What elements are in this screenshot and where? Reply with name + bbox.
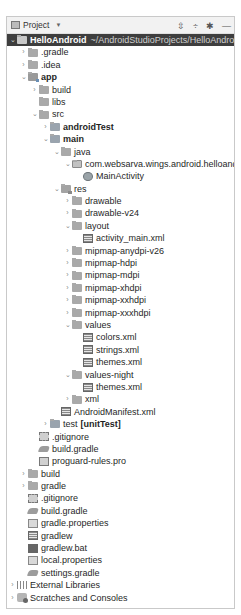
chevron-down-icon[interactable]: ⌄ — [63, 319, 72, 331]
tree-item[interactable]: ›mipmap-mdpi — [7, 269, 234, 281]
chevron-right-icon[interactable]: › — [8, 579, 17, 591]
tree-item[interactable]: proguard-rules.pro — [7, 455, 234, 467]
collapse-all-button[interactable]: ÷ — [193, 21, 198, 31]
chevron-right-icon[interactable]: › — [63, 207, 72, 219]
tree-item[interactable]: build.gradle — [7, 505, 234, 517]
gradle-file-icon — [27, 570, 39, 576]
chevron-right-icon[interactable]: › — [63, 282, 72, 294]
tree-item[interactable]: ›.idea — [7, 59, 234, 71]
tree-item[interactable]: ›build — [7, 84, 234, 96]
tree-item-label: gradle — [41, 480, 66, 492]
chevron-right-icon[interactable]: › — [19, 59, 28, 71]
chevron-down-icon[interactable]: ⌄ — [19, 71, 28, 83]
tree-item[interactable]: ›mipmap-xxxhdpi — [7, 307, 234, 319]
tree-item[interactable]: settings.gradle — [7, 567, 234, 579]
tree-item[interactable]: AndroidManifest.xml — [7, 406, 234, 418]
tree-item[interactable]: ⌄values — [7, 319, 234, 331]
chevron-down-icon[interactable]: ⌄ — [63, 369, 72, 381]
tree-item[interactable]: ›build — [7, 468, 234, 480]
chevron-right-icon[interactable]: › — [63, 393, 72, 405]
tree-item-label: .gitignore — [41, 492, 78, 504]
tree-item-label: values-night — [85, 369, 134, 381]
tree-item[interactable]: ›drawable — [7, 195, 234, 207]
tree-item[interactable]: ›gradle — [7, 480, 234, 492]
chevron-down-icon[interactable]: ⌄ — [30, 108, 39, 120]
tree-item[interactable]: .gitignore — [7, 431, 234, 443]
folder-icon — [72, 371, 82, 379]
chevron-right-icon[interactable]: › — [8, 592, 17, 604]
tree-item[interactable]: build.gradle — [7, 443, 234, 455]
tree-item[interactable]: ›mipmap-xhdpi — [7, 282, 234, 294]
chevron-right-icon[interactable]: › — [30, 84, 39, 96]
tree-item[interactable]: activity_main.xml — [7, 232, 234, 244]
tree-item[interactable]: ›androidTest — [7, 121, 234, 133]
expand-all-button[interactable]: ⇳ — [177, 21, 185, 31]
tree-item[interactable]: MainActivity — [7, 170, 234, 182]
tree-item-label: strings.xml — [96, 344, 139, 356]
chevron-right-icon[interactable]: › — [19, 46, 28, 58]
chevron-right-icon[interactable]: › — [63, 294, 72, 306]
tree-item-label: androidTest — [63, 121, 114, 133]
project-view-selector[interactable]: Project ▼ — [11, 20, 61, 30]
tree-item-label: test — [63, 418, 78, 430]
chevron-right-icon[interactable]: › — [63, 307, 72, 319]
tree-item[interactable]: ›test[unitTest] — [7, 418, 234, 430]
module-folder-icon — [28, 73, 38, 81]
tree-item[interactable]: themes.xml — [7, 356, 234, 368]
tree-item-label: activity_main.xml — [96, 232, 165, 244]
tree-item[interactable]: ›Scratches and Consoles — [7, 592, 234, 604]
properties-file-icon — [28, 519, 38, 528]
tree-item[interactable]: ›.gradle — [7, 46, 234, 58]
tree-item[interactable]: ⌄HelloAndroid ~/AndroidStudioProjects/He… — [7, 34, 234, 46]
chevron-down-icon[interactable]: ⌄ — [63, 220, 72, 232]
folder-icon — [72, 321, 82, 329]
tree-item[interactable]: ›mipmap-anydpi-v26 — [7, 245, 234, 257]
tree-item[interactable]: ›xml — [7, 393, 234, 405]
tree-item[interactable]: ⌄layout — [7, 220, 234, 232]
tree-item-label: drawable-v24 — [85, 207, 139, 219]
tree-item[interactable]: ⌄java — [7, 146, 234, 158]
chevron-right-icon[interactable]: › — [63, 245, 72, 257]
tree-item[interactable]: gradle.properties — [7, 517, 234, 529]
tree-item-label: build — [52, 84, 71, 96]
chevron-right-icon[interactable]: › — [41, 418, 50, 430]
chevron-down-icon[interactable]: ⌄ — [8, 34, 17, 46]
tree-item[interactable]: ›mipmap-xxhdpi — [7, 294, 234, 306]
tree-item[interactable]: gradlew.bat — [7, 542, 234, 554]
tree-item[interactable]: ›External Libraries — [7, 579, 234, 591]
tree-item-label: mipmap-xhdpi — [85, 282, 142, 294]
tree-item[interactable]: colors.xml — [7, 331, 234, 343]
hide-button[interactable]: — — [222, 21, 231, 31]
tree-item-label: AndroidManifest.xml — [74, 406, 156, 418]
tree-item[interactable]: local.properties — [7, 554, 234, 566]
chevron-right-icon[interactable]: › — [19, 480, 28, 492]
tree-item[interactable]: gradlew — [7, 530, 234, 542]
chevron-right-icon[interactable]: › — [41, 121, 50, 133]
chevron-down-icon[interactable]: ⌄ — [41, 133, 50, 145]
collapse-all-icon: ÷ — [193, 21, 198, 31]
library-icon — [17, 581, 27, 589]
chevron-down-icon[interactable]: ⌄ — [52, 183, 61, 195]
chevron-right-icon[interactable]: › — [19, 468, 28, 480]
chevron-right-icon[interactable]: › — [63, 195, 72, 207]
tree-item[interactable]: strings.xml — [7, 344, 234, 356]
settings-button[interactable]: ✱ — [206, 21, 214, 31]
tree-item-label: libs — [52, 96, 66, 108]
tree-item[interactable]: libs — [7, 96, 234, 108]
tree-item[interactable]: ⌄main — [7, 133, 234, 145]
tree-item[interactable]: ›mipmap-hdpi — [7, 257, 234, 269]
chevron-right-icon[interactable]: › — [63, 257, 72, 269]
tree-item[interactable]: ⌄res — [7, 183, 234, 195]
chevron-right-icon[interactable]: › — [63, 269, 72, 281]
tree-item[interactable]: .gitignore — [7, 492, 234, 504]
tree-item[interactable]: ⌄src — [7, 108, 234, 120]
chevron-down-icon[interactable]: ⌄ — [52, 146, 61, 158]
tree-item[interactable]: themes.xml — [7, 381, 234, 393]
tree-item-label: mipmap-xxhdpi — [85, 294, 146, 306]
folder-icon — [28, 482, 38, 490]
tree-item[interactable]: ⌄app — [7, 71, 234, 83]
chevron-down-icon[interactable]: ⌄ — [63, 158, 72, 170]
tree-item[interactable]: ›drawable-v24 — [7, 207, 234, 219]
tree-item[interactable]: ⌄values-night — [7, 369, 234, 381]
tree-item[interactable]: ⌄com.websarva.wings.android.helloandroid — [7, 158, 234, 170]
